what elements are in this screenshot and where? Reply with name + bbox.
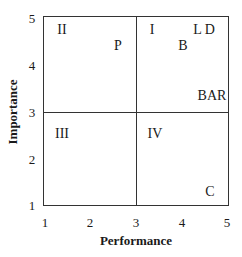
point-label-p: P — [114, 39, 122, 53]
vertical-divider — [136, 16, 137, 206]
point-label-bar: BAR — [198, 89, 227, 103]
x-axis-title: Performance — [100, 234, 172, 247]
x-tick-3: 3 — [133, 216, 140, 229]
horizontal-divider — [43, 112, 229, 113]
x-tick-1: 1 — [42, 216, 49, 229]
point-label-b: B — [178, 39, 187, 53]
quadrant-label-ii: II — [57, 23, 66, 37]
y-tick-5: 5 — [29, 12, 36, 25]
point-label-c: C — [205, 185, 214, 199]
y-tick-1: 1 — [29, 199, 36, 212]
y-tick-4: 4 — [29, 59, 36, 72]
x-tick-4: 4 — [179, 216, 186, 229]
x-tick-5: 5 — [224, 216, 231, 229]
quadrant-label-iii: III — [55, 127, 69, 141]
x-tick-2: 2 — [87, 216, 94, 229]
y-tick-3: 3 — [29, 106, 36, 119]
y-axis-title: Importance — [6, 80, 19, 145]
point-label-ld: L D — [193, 23, 215, 37]
y-tick-2: 2 — [29, 153, 36, 166]
quadrant-label-iv: IV — [148, 127, 163, 141]
quadrant-label-i: I — [150, 23, 155, 37]
